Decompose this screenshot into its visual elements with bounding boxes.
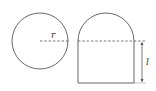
arched-rectangle-figure: l xyxy=(78,13,149,83)
diagram: r l xyxy=(0,0,156,91)
circle-figure: r xyxy=(12,13,68,69)
height-label: l xyxy=(146,57,149,67)
arrow-up-icon xyxy=(141,42,144,46)
arched-rectangle-outline xyxy=(78,13,134,83)
arrow-down-icon xyxy=(141,79,144,83)
radius-label: r xyxy=(51,30,56,40)
